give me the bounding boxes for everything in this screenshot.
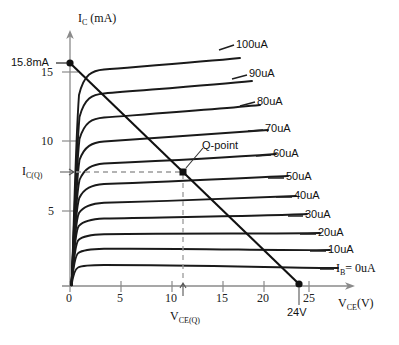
x-axis-title-sub: CE xyxy=(347,303,357,312)
y-axis-title-unit: (mA) xyxy=(90,11,116,25)
load-line-x-intercept-dot xyxy=(295,280,302,287)
curve-label-60ua: 60uA xyxy=(273,148,299,159)
q-point-marker xyxy=(180,169,187,176)
plot-canvas xyxy=(0,0,399,345)
vce-q-label-main: V xyxy=(170,309,179,323)
load-line-y-intercept-label: 15.8mA xyxy=(11,57,49,68)
curve-label-10ua: 10uA xyxy=(328,244,354,255)
q-point-label: Q-point xyxy=(202,140,238,151)
ib-label-rest: = 0uA xyxy=(345,261,375,275)
curve-label-ib-0ua: IB= 0uA xyxy=(336,262,376,277)
curve-label-100ua: 100uA xyxy=(236,39,268,50)
curve-label-80ua: 80uA xyxy=(257,96,283,107)
x-tick-label-10: 10 xyxy=(165,292,177,304)
y-axis-title-sub: C xyxy=(82,18,87,27)
x-axis-title-unit: (V) xyxy=(357,296,374,310)
ic-q-label-sub: C(Q) xyxy=(26,171,42,180)
curve-label-70ua: 70uA xyxy=(265,123,291,134)
x-axis-title: VCE(V) xyxy=(338,297,374,312)
x-tick-label-15: 15 xyxy=(216,292,228,304)
curve-label-20ua: 20uA xyxy=(318,227,344,238)
curve-50ua xyxy=(72,176,289,285)
curve-90ua xyxy=(72,81,253,285)
ic-q-arrow xyxy=(60,169,74,175)
leader-100ua xyxy=(219,45,234,50)
curve-label-90ua: 90uA xyxy=(249,68,275,79)
leader-70ua xyxy=(248,130,263,131)
x-axis-title-main: V xyxy=(338,296,347,310)
y-tick-label-10: 10 xyxy=(41,135,53,147)
curve-70ua xyxy=(72,130,269,285)
curve-label-50ua: 50uA xyxy=(286,171,312,182)
x-tick-label-0: 0 xyxy=(66,292,72,304)
y-axis-title: IC (mA) xyxy=(78,12,116,27)
vce-q-label-sub: CE(Q) xyxy=(179,316,200,325)
load-line-x-intercept-label: 24V xyxy=(287,307,307,318)
y-tick-label-5: 5 xyxy=(48,205,54,217)
x-tick-label-25: 25 xyxy=(303,292,315,304)
curve-label-30ua: 30uA xyxy=(305,209,331,220)
transistor-characteristic-curves-chart: IC (mA) VCE(V) 5 10 15 0 5 10 15 20 25 1… xyxy=(0,0,399,345)
leader-60ua xyxy=(256,155,271,156)
curve-label-40ua: 40uA xyxy=(294,190,320,201)
vce-q-arrow xyxy=(180,283,186,296)
curve-20ua xyxy=(72,233,321,285)
vce-q-label: VCE(Q) xyxy=(170,310,200,325)
curve-40ua xyxy=(72,196,297,285)
x-tick-label-5: 5 xyxy=(117,292,123,304)
q-point-group xyxy=(60,148,203,296)
ic-q-label: IC(Q) xyxy=(22,165,42,180)
x-tick-label-20: 20 xyxy=(257,292,269,304)
leader-90ua xyxy=(232,75,247,79)
